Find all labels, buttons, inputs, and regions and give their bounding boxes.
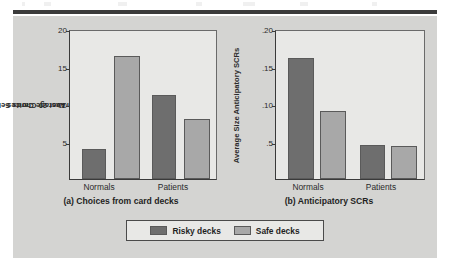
y-tick-b-10: .10 bbox=[262, 101, 273, 110]
bar-group-b-patients bbox=[356, 31, 422, 179]
safe-swatch-icon bbox=[234, 226, 251, 235]
x-label-b-normals: Normals bbox=[292, 182, 323, 192]
x-label-a-patients: Patients bbox=[158, 182, 188, 192]
legend-label-risky: Risky decks bbox=[172, 226, 220, 236]
bar-b-normals-risky[interactable] bbox=[288, 58, 314, 179]
y-tick-a-5: 5 bbox=[63, 138, 67, 147]
bars-a bbox=[70, 31, 216, 179]
y-axis-title-a: Average Cards Selected in Last 20 Choice… bbox=[17, 30, 45, 180]
top-horizontal-rule bbox=[13, 10, 437, 14]
x-label-a-normals: Normals bbox=[83, 182, 114, 192]
y-tick-a-20: 20 bbox=[58, 26, 67, 35]
bar-b-normals-safe[interactable] bbox=[320, 111, 346, 179]
plot-area-b bbox=[275, 30, 425, 180]
y-axis-ticks-b: .20 .15 .10 .5 bbox=[249, 30, 273, 180]
x-axis-labels-b: Normals Patients bbox=[275, 182, 425, 195]
risky-swatch-icon bbox=[150, 226, 167, 235]
y-axis-title-b-text: Average Size Anticipatory SCRs bbox=[233, 47, 242, 163]
chart-panel-b: Average Size Anticipatory SCRs .20 .15 .… bbox=[229, 30, 429, 200]
y-tick-a-15: 15 bbox=[58, 63, 67, 72]
y-tick-b-05: .5 bbox=[266, 138, 273, 147]
bar-a-normals-safe[interactable] bbox=[114, 56, 140, 179]
bar-group-a-normals bbox=[76, 31, 142, 179]
bars-b bbox=[276, 31, 424, 179]
scan-artifact-strip bbox=[0, 0, 450, 9]
bar-b-patients-safe[interactable] bbox=[391, 146, 417, 179]
chart-panel-a: Average Cards Selected in Last 20 Choice… bbox=[21, 30, 221, 200]
bar-group-b-normals bbox=[284, 31, 350, 179]
legend-label-safe: Safe decks bbox=[256, 226, 300, 236]
x-axis-labels-a: Normals Patients bbox=[69, 182, 217, 195]
y-axis-ticks-a: 20 15 10 5 bbox=[43, 30, 67, 180]
y-tick-b-20: .20 bbox=[262, 26, 273, 35]
panel-b-caption: (b) Anticipatory SCRs bbox=[229, 196, 429, 206]
legend-item-safe[interactable]: Safe decks bbox=[234, 226, 300, 236]
y-tick-a-10: 10 bbox=[58, 101, 67, 110]
x-label-b-patients: Patients bbox=[366, 182, 396, 192]
plot-area-a bbox=[69, 30, 217, 180]
y-tick-b-15: .15 bbox=[262, 63, 273, 72]
bar-group-a-patients bbox=[148, 31, 214, 179]
bar-a-patients-risky[interactable] bbox=[152, 95, 176, 179]
panel-a-caption: (a) Choices from card decks bbox=[21, 196, 221, 206]
y-axis-title-b: Average Size Anticipatory SCRs bbox=[223, 30, 251, 180]
legend: Risky decks Safe decks bbox=[126, 220, 324, 241]
charts-area: Average Cards Selected in Last 20 Choice… bbox=[13, 16, 437, 258]
bar-a-patients-safe[interactable] bbox=[184, 119, 210, 179]
bar-b-patients-risky[interactable] bbox=[360, 145, 385, 179]
legend-item-risky[interactable]: Risky decks bbox=[150, 226, 220, 236]
figure-container: Average Cards Selected in Last 20 Choice… bbox=[0, 0, 450, 269]
bar-a-normals-risky[interactable] bbox=[82, 149, 106, 179]
